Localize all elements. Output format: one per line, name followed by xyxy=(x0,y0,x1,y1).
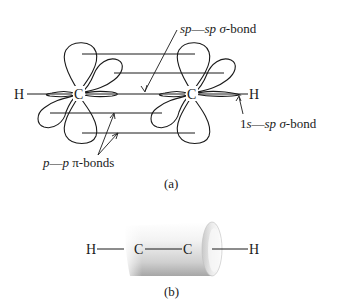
s-sp-arrow xyxy=(239,97,243,114)
sp-sp-arrowhead xyxy=(141,85,147,92)
atom-h-left: H xyxy=(14,87,24,102)
sp-sp-arrow xyxy=(145,30,177,91)
b-atom-c-right: C xyxy=(183,242,192,257)
acetylene-bonding-diagram: H C C H sp—sp σ-bond 1s—sp σ-bond p—p π-… xyxy=(0,0,339,301)
atom-c-left: C xyxy=(74,87,83,102)
b-atom-h-left: H xyxy=(86,242,96,257)
pi-arrow-1 xyxy=(98,114,114,155)
label-sp-sp-sigma-bond: sp—sp σ-bond xyxy=(180,21,257,36)
caption-a: (a) xyxy=(164,176,178,191)
figure-a xyxy=(27,30,248,155)
b-atom-h-right: H xyxy=(249,242,259,257)
caption-b: (b) xyxy=(164,284,179,299)
arrows xyxy=(98,30,243,155)
s-sp-arrowhead xyxy=(236,96,241,101)
pi-arrow-2 xyxy=(98,134,117,155)
label-p-p-pi-bonds: p—p π-bonds xyxy=(42,155,114,170)
label-1s-sp-sigma-bond: 1s—sp σ-bond xyxy=(240,116,317,131)
b-atom-c-left: C xyxy=(134,242,143,257)
atom-h-right: H xyxy=(249,87,259,102)
atom-c-right: C xyxy=(187,87,196,102)
figure-b: H C C H xyxy=(86,222,259,276)
